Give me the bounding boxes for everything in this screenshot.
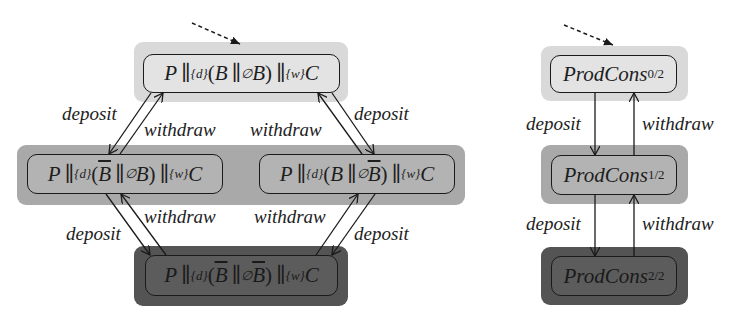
label-deposit-upper-right: deposit [526, 113, 581, 135]
transition-edges [0, 0, 738, 326]
label-withdraw-top-left: withdraw [144, 119, 216, 141]
label-deposit-top-right: deposit [354, 103, 409, 125]
label-deposit-bottom-right: deposit [354, 223, 409, 245]
label-deposit-top-left: deposit [62, 103, 117, 125]
label-withdraw-bottom-right: withdraw [254, 206, 326, 228]
initial-arrow-right [564, 25, 613, 45]
initial-arrow-left [192, 23, 240, 44]
label-deposit-bottom-left: deposit [66, 223, 121, 245]
label-withdraw-top-right: withdraw [250, 119, 322, 141]
label-withdraw-bottom-left: withdraw [144, 206, 216, 228]
label-deposit-lower-right: deposit [526, 213, 581, 235]
label-withdraw-upper-right: withdraw [642, 113, 714, 135]
label-withdraw-lower-right: withdraw [642, 213, 714, 235]
